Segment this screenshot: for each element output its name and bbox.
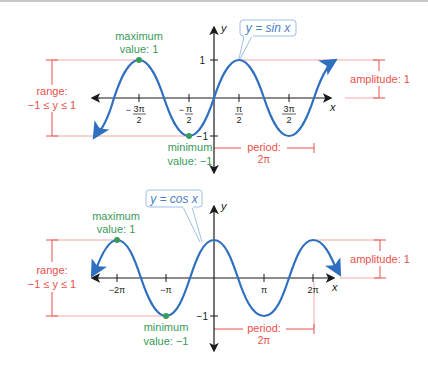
sine-min-label-2: value: −1 xyxy=(168,155,213,167)
cosine-x-axis-label: x xyxy=(331,281,338,293)
sine-ytick-1: 1 xyxy=(199,55,205,66)
cosine-xtick-neg2pi: −2π xyxy=(109,285,125,295)
cosine-min-label-2: value: −1 xyxy=(144,335,189,347)
svg-text:−: − xyxy=(179,105,184,115)
sine-xtick-3pi2: 3π 2 xyxy=(282,104,296,125)
svg-text:π: π xyxy=(186,104,192,114)
sine-amplitude-label: amplitude: 1 xyxy=(350,73,410,85)
cosine-xtick-pi: π xyxy=(261,285,267,295)
cosine-range-label-1: range: xyxy=(36,264,67,276)
trig-graphs-diagram: y = sin x y x 1 −1 − 3π 2 − π 2 π 2 3π 2… xyxy=(0,0,428,370)
svg-text:π: π xyxy=(236,104,242,114)
sine-range-label-2: −1 ≤ y ≤ 1 xyxy=(28,99,76,111)
sine-xtick-pi2: π 2 xyxy=(235,104,243,125)
sine-min-point xyxy=(186,133,192,139)
cosine-ytick-neg1: −1 xyxy=(197,311,209,322)
cosine-max-point xyxy=(114,237,120,243)
svg-text:3π: 3π xyxy=(133,104,144,114)
cosine-max-label-2: value: 1 xyxy=(97,223,136,235)
cosine-period-label-1: period: xyxy=(247,322,281,334)
sine-period-label-1: period: xyxy=(247,141,281,153)
cosine-range-label-2: −1 ≤ y ≤ 1 xyxy=(28,278,76,290)
cosine-xtick-2pi: 2π xyxy=(307,285,318,295)
sine-callout-text: y = sin x xyxy=(245,21,291,35)
sine-x-axis-label: x xyxy=(329,101,336,113)
sine-xtick-negpi2: − π 2 xyxy=(179,104,193,125)
sine-y-axis-label: y xyxy=(220,22,228,34)
cosine-xtick-negpi: −π xyxy=(160,285,171,295)
cosine-min-label-1: minimum xyxy=(144,321,189,333)
svg-text:2: 2 xyxy=(286,115,291,125)
svg-text:2: 2 xyxy=(186,115,191,125)
svg-text:2: 2 xyxy=(236,115,241,125)
svg-text:2: 2 xyxy=(136,115,141,125)
sine-xtick-neg3pi2: − 3π 2 xyxy=(126,104,146,125)
sine-period-label-2: 2π xyxy=(258,154,271,165)
cosine-period-label-2: 2π xyxy=(258,335,271,346)
sine-max-label-1: maximum xyxy=(115,30,163,42)
cosine-min-point xyxy=(163,313,169,319)
cosine-callout-text: y = cos x xyxy=(149,192,199,206)
sine-max-label-2: value: 1 xyxy=(120,43,159,55)
sine-min-label-1: minimum xyxy=(168,141,213,153)
sine-range-label-1: range: xyxy=(36,85,67,97)
svg-text:3π: 3π xyxy=(283,104,294,114)
sine-graph xyxy=(46,20,385,172)
sine-max-point xyxy=(136,57,142,63)
cosine-guide-lines xyxy=(52,240,380,328)
sine-range-bracket xyxy=(46,60,58,136)
cosine-amplitude-label: amplitude: 1 xyxy=(350,253,410,265)
cosine-max-label-1: maximum xyxy=(92,210,140,222)
cosine-y-axis-label: y xyxy=(220,200,228,212)
svg-text:−: − xyxy=(126,105,131,115)
